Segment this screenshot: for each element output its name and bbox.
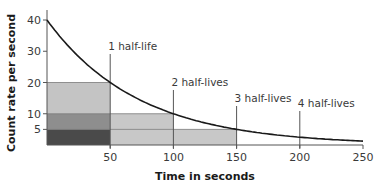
- half-life-label: 1 half-life: [108, 40, 157, 52]
- x-tick-label: 50: [103, 151, 117, 164]
- half-life-label: 4 half-lives: [298, 97, 355, 109]
- x-tick-label: 250: [353, 151, 374, 164]
- half-life-decay-chart: 51020304050100150200250 1 half-life2 hal…: [0, 0, 376, 189]
- shaded-region: [47, 114, 110, 130]
- y-tick-label: 20: [27, 77, 41, 90]
- y-tick-label: 30: [27, 45, 41, 58]
- y-tick-label: 10: [27, 108, 41, 121]
- y-tick-label: 40: [27, 14, 41, 27]
- shaded-regions: [47, 83, 237, 146]
- shaded-region: [47, 83, 110, 114]
- annotations: 1 half-life2 half-lives3 half-lives4 hal…: [108, 40, 355, 109]
- chart-canvas: 51020304050100150200250 1 half-life2 hal…: [0, 0, 376, 189]
- x-axis-title: Time in seconds: [155, 170, 255, 183]
- shaded-region: [110, 114, 173, 130]
- x-tick-label: 200: [289, 151, 310, 164]
- half-life-label: 3 half-lives: [235, 92, 292, 104]
- shaded-region: [47, 129, 110, 145]
- x-tick-label: 150: [226, 151, 247, 164]
- half-life-label: 2 half-lives: [171, 76, 228, 88]
- y-axis-title: Count rate per second: [5, 14, 18, 152]
- x-tick-label: 100: [163, 151, 184, 164]
- y-tick-label: 5: [34, 123, 41, 136]
